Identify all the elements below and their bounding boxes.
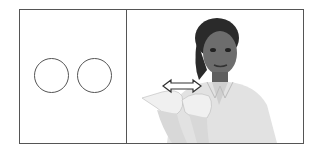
double-arrow-icon: [163, 80, 201, 92]
person-illustration: [127, 10, 303, 143]
circle-shape-2: [77, 58, 112, 93]
sign-language-photo: [127, 10, 303, 143]
figure-frame: [19, 9, 304, 144]
circle-shape-1: [34, 58, 69, 93]
diagram-panel: [20, 10, 126, 143]
